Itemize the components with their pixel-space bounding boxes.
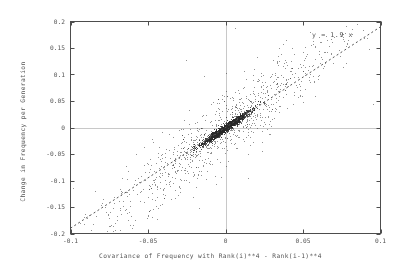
y-tick-label: -0.05 <box>22 150 65 157</box>
y-tick-label: 0 <box>22 124 65 131</box>
y-tick-label: 0.1 <box>22 71 65 78</box>
x-tick-label: 0 <box>206 237 246 244</box>
x-tick-label: -0.05 <box>128 237 168 244</box>
y-tick-label: 0.15 <box>22 44 65 51</box>
x-tick-label: 0.1 <box>361 237 397 244</box>
x-axis-label: Covariance of Frequency with Rank(i)**4 … <box>99 252 322 259</box>
y-tick-label: 0.2 <box>22 18 65 25</box>
x-tick-label: 0.05 <box>283 237 323 244</box>
y-tick-label: -0.1 <box>22 177 65 184</box>
fit-line-annotation: y = 1.9 x <box>312 31 353 39</box>
y-tick-label: 0.05 <box>22 97 65 104</box>
y-tick-label: -0.15 <box>22 203 65 210</box>
scatter-plot-figure: Covariance of Frequency with Rank(i)**4 … <box>0 0 397 269</box>
y-tick-label: -0.2 <box>22 230 65 237</box>
x-tick-label: -0.1 <box>51 237 91 244</box>
